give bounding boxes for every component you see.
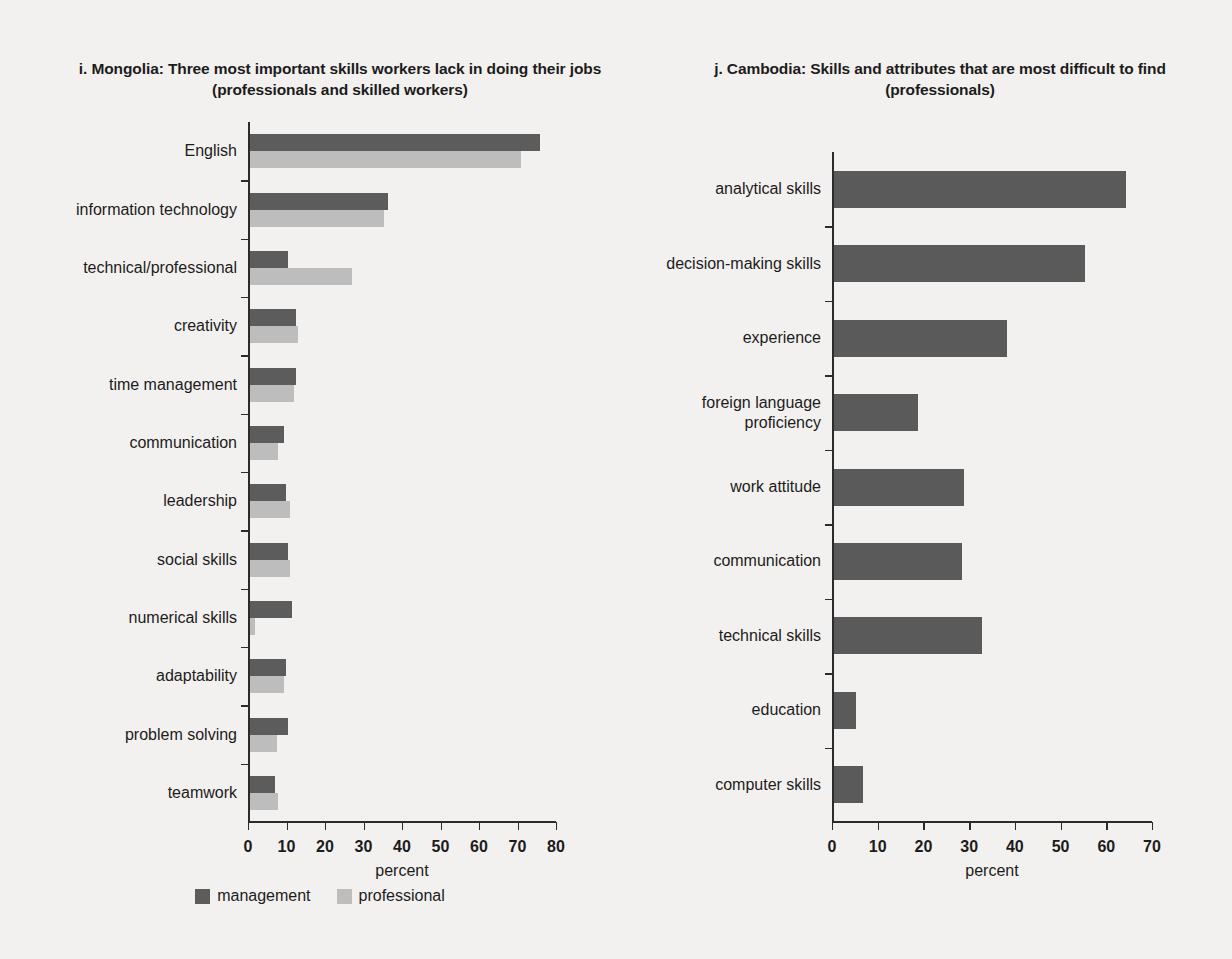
- bar-row: technical skills: [832, 617, 1152, 654]
- x-axis-tick-label: 0: [828, 838, 837, 856]
- bar-row: experience: [832, 320, 1152, 357]
- bar-professionals: [834, 245, 1085, 282]
- bar-row: decision-making skills: [832, 245, 1152, 282]
- category-label: leadership: [0, 491, 237, 511]
- bar-professionals: [834, 171, 1127, 208]
- bar-professionals: [834, 394, 919, 431]
- category-label: social skills: [0, 550, 237, 570]
- x-axis-tick: [402, 822, 403, 830]
- bar-row: leadership: [248, 484, 556, 518]
- x-axis-tick-label: 40: [1006, 838, 1024, 856]
- bar-row: analytical skills: [832, 171, 1152, 208]
- legend-item-management: management: [195, 887, 310, 905]
- bar-management: [250, 543, 289, 560]
- legend-swatch-icon-management: [195, 889, 210, 904]
- legend-swatch-icon-professional: [337, 889, 352, 904]
- category-label: English: [0, 141, 237, 161]
- bar-professional: [250, 793, 279, 810]
- bar-professionals: [834, 543, 962, 580]
- x-axis-tick: [518, 822, 519, 830]
- legend: management professional: [0, 887, 640, 905]
- category-label: teamwork: [0, 783, 237, 803]
- bar-row: numerical skills: [248, 601, 556, 635]
- bar-row: computer skills: [832, 766, 1152, 803]
- y-axis-tick: [825, 301, 832, 302]
- x-axis-tick: [878, 822, 879, 830]
- bar-row: foreign language proficiency: [832, 394, 1152, 431]
- x-axis-tick-label: 50: [432, 838, 450, 856]
- y-axis-tick: [241, 764, 248, 765]
- category-label: adaptability: [0, 666, 237, 686]
- bar-management: [250, 426, 285, 443]
- bar-professionals: [834, 766, 864, 803]
- bar-rows-cambodia: analytical skillsdecision-making skillse…: [832, 152, 1152, 822]
- y-axis-tick: [241, 180, 248, 181]
- bar-row: creativity: [248, 309, 556, 343]
- y-axis-tick: [241, 705, 248, 706]
- y-axis-tick: [241, 472, 248, 473]
- x-axis-tick-label: 30: [960, 838, 978, 856]
- chart-panel-cambodia: j. Cambodia: Skills and attributes that …: [640, 0, 1232, 959]
- x-axis-tick-label: 20: [316, 838, 334, 856]
- x-axis-tick: [1015, 822, 1016, 830]
- legend-item-professional: professional: [337, 887, 445, 905]
- category-label: communication: [591, 551, 821, 571]
- bar-rows-mongolia: Englishinformation technologytechnical/p…: [248, 122, 556, 822]
- y-axis-tick: [825, 226, 832, 227]
- y-axis-tick: [825, 748, 832, 749]
- bar-row: communication: [248, 426, 556, 460]
- bar-management: [250, 309, 296, 326]
- bar-row: communication: [832, 543, 1152, 580]
- bar-row: education: [832, 692, 1152, 729]
- y-axis-tick: [241, 647, 248, 648]
- category-label: communication: [0, 433, 237, 453]
- x-axis-tick: [556, 822, 557, 830]
- bar-professionals: [834, 692, 857, 729]
- category-label: foreign language proficiency: [591, 393, 821, 433]
- legend-label-professional: professional: [359, 887, 445, 905]
- category-label: time management: [0, 375, 237, 395]
- bar-row: social skills: [248, 543, 556, 577]
- bar-professional: [250, 268, 352, 285]
- bar-professional: [250, 560, 290, 577]
- figure-container: i. Mongolia: Three most important skills…: [0, 0, 1232, 959]
- x-axis-tick: [969, 822, 970, 830]
- bar-management: [250, 718, 289, 735]
- x-axis-tick-label: 80: [547, 838, 565, 856]
- x-axis-tick: [1061, 822, 1062, 830]
- bar-management: [250, 659, 287, 676]
- bar-management: [250, 368, 296, 385]
- bar-row: technical/professional: [248, 251, 556, 285]
- bar-professional: [250, 501, 290, 518]
- x-axis-tick: [364, 822, 365, 830]
- y-axis-tick: [825, 599, 832, 600]
- chart-panel-mongolia: i. Mongolia: Three most important skills…: [0, 0, 640, 959]
- category-label: technical skills: [591, 626, 821, 646]
- x-axis-tick-label: 20: [915, 838, 933, 856]
- x-axis-tick-label: 70: [1143, 838, 1161, 856]
- category-label: analytical skills: [591, 179, 821, 199]
- y-axis-tick: [825, 375, 832, 376]
- category-label: experience: [591, 328, 821, 348]
- y-axis-tick: [241, 414, 248, 415]
- category-label: problem solving: [0, 725, 237, 745]
- category-label: decision-making skills: [591, 254, 821, 274]
- x-axis-tick-label: 10: [278, 838, 296, 856]
- y-axis-tick: [241, 589, 248, 590]
- x-axis-tick-label: 30: [355, 838, 373, 856]
- x-axis-tick-label: 60: [1097, 838, 1115, 856]
- x-axis-tick-label: 40: [393, 838, 411, 856]
- x-axis-tick: [923, 822, 924, 830]
- bar-professional: [250, 326, 298, 343]
- bar-professional: [250, 151, 521, 168]
- x-axis-title-mongolia: percent: [248, 862, 556, 880]
- category-label: creativity: [0, 316, 237, 336]
- y-axis-tick: [241, 530, 248, 531]
- x-axis-tick: [287, 822, 288, 830]
- category-label: computer skills: [591, 775, 821, 795]
- bar-row: adaptability: [248, 659, 556, 693]
- legend-label-management: management: [217, 887, 310, 905]
- x-axis-tick-label: 10: [869, 838, 887, 856]
- bar-professional: [250, 385, 294, 402]
- bar-row: information technology: [248, 193, 556, 227]
